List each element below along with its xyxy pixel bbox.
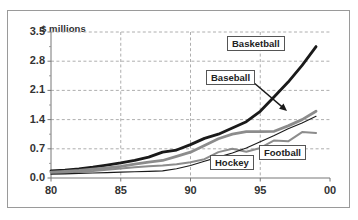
x-axis-tick-label: 00 — [315, 184, 345, 196]
chart-frame: $ millions 0.00.71.42.12.83.58085909500 … — [7, 10, 350, 208]
chart-plot-svg — [8, 11, 351, 209]
series-label-football: Football — [259, 145, 306, 160]
x-axis-tick-label: 85 — [106, 184, 136, 196]
y-axis-tick-label: 1.4 — [15, 113, 45, 125]
x-axis-tick-label: 90 — [176, 184, 206, 196]
y-axis-tick-label: 3.5 — [15, 25, 45, 37]
series-label-basketball: Basketball — [227, 36, 285, 51]
y-axis-tick-label: 0.7 — [15, 142, 45, 154]
y-axis-tick-label: 0.0 — [15, 171, 45, 183]
chart-figure: $ millions 0.00.71.42.12.83.58085909500 … — [0, 0, 358, 220]
x-axis-tick-label: 80 — [36, 184, 66, 196]
x-axis-tick-label: 95 — [245, 184, 275, 196]
y-axis-tick-label: 2.1 — [15, 83, 45, 95]
series-label-baseball: Baseball — [206, 70, 255, 85]
series-label-hockey: Hockey — [210, 155, 254, 170]
y-axis-tick-label: 2.8 — [15, 54, 45, 66]
